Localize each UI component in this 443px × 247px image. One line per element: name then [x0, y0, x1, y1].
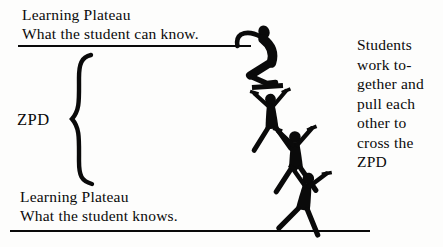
diagram-artwork [0, 0, 443, 247]
supporting-hands [252, 86, 283, 88]
climbing-student-figure-icon [237, 24, 275, 84]
zpd-brace [72, 55, 92, 184]
zpd-diagram: Learning Plateau What the student can kn… [0, 0, 443, 247]
